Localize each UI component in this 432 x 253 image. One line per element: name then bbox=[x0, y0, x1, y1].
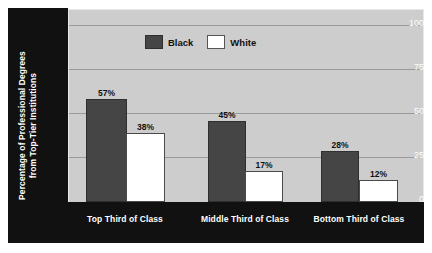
bar-label-black-top-third: 57% bbox=[98, 88, 115, 98]
bar-label-black-bottom-third: 28% bbox=[331, 140, 348, 150]
bar-black-bottom-third: 28% bbox=[321, 151, 359, 202]
category-label-bottom-third: Bottom Third of Class bbox=[314, 214, 405, 224]
legend-entry-white: White bbox=[207, 35, 256, 49]
y-tick-dash-0 bbox=[427, 198, 432, 199]
y-tick-dash-25 bbox=[427, 154, 432, 155]
y-tick-label-25: 25 bbox=[414, 150, 427, 160]
y-tick-100: 100 bbox=[372, 18, 432, 30]
bar-label-white-middle-third: 17% bbox=[255, 160, 272, 170]
bar-label-white-top-third: 38% bbox=[137, 122, 154, 132]
y-tick-0: 0 bbox=[372, 194, 432, 206]
y-tick-dash-75 bbox=[427, 66, 432, 67]
legend-swatch-black bbox=[145, 35, 163, 49]
gridline-75 bbox=[69, 69, 423, 70]
legend-swatch-white bbox=[207, 35, 225, 49]
bar-white-middle-third: 17% bbox=[245, 171, 283, 202]
y-tick-label-100: 100 bbox=[409, 18, 427, 28]
legend-label-white: White bbox=[230, 37, 256, 48]
y-tick-label-0: 0 bbox=[419, 194, 427, 204]
legend: Black White bbox=[145, 35, 256, 49]
legend-entry-black: Black bbox=[145, 35, 193, 49]
legend-label-black: Black bbox=[168, 37, 193, 48]
y-tick-label-50: 50 bbox=[414, 106, 427, 116]
y-tick-75: 75 bbox=[372, 62, 432, 74]
bar-label-white-bottom-third: 12% bbox=[370, 169, 387, 179]
bar-black-middle-third: 45% bbox=[208, 121, 246, 202]
y-tick-label-75: 75 bbox=[414, 62, 427, 72]
y-tick-dash-100 bbox=[427, 22, 432, 23]
y-tick-25: 25 bbox=[372, 150, 432, 162]
bar-chart-figure: Percentage of Professional Degrees from … bbox=[0, 0, 432, 253]
plot-area: Black White 57% 38% 45% 17% 28% 12% bbox=[68, 9, 424, 202]
y-tick-50: 50 bbox=[372, 106, 432, 118]
bar-white-top-third: 38% bbox=[126, 133, 165, 202]
y-tick-dash-50 bbox=[427, 110, 432, 111]
category-label-middle-third: Middle Third of Class bbox=[201, 214, 289, 224]
gridline-100 bbox=[69, 25, 423, 26]
bar-black-top-third: 57% bbox=[86, 99, 127, 202]
category-label-top-third: Top Third of Class bbox=[87, 214, 163, 224]
bar-label-black-middle-third: 45% bbox=[218, 110, 235, 120]
